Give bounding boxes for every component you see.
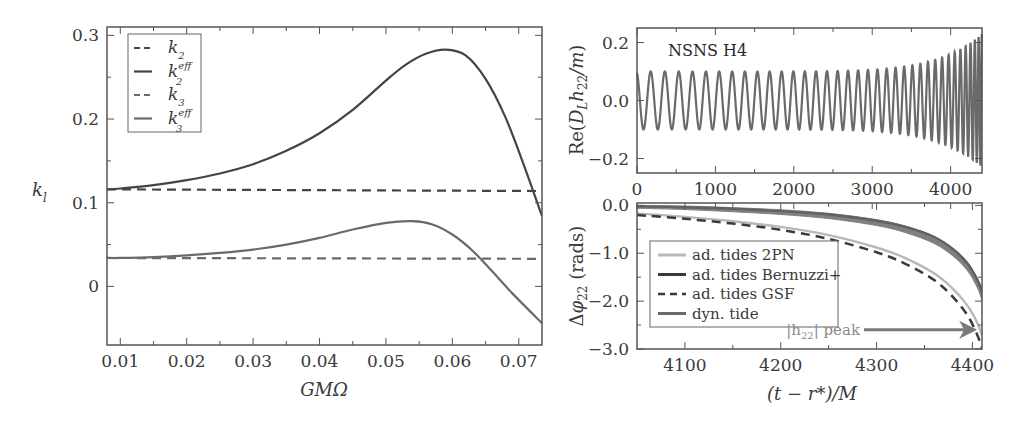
bottom-right-y-axis-label: Δφ22 (rads) bbox=[566, 226, 590, 327]
y-tick-label: 0 bbox=[88, 276, 99, 296]
h22-peak-annotation: |h22| peak bbox=[786, 321, 977, 341]
left-y-axis-label: kl bbox=[32, 179, 47, 205]
x-tick-label: 2000 bbox=[772, 179, 815, 199]
y-tick-label: 0.0 bbox=[602, 91, 629, 111]
series-line bbox=[107, 189, 542, 191]
x-tick-label: 4300 bbox=[855, 355, 898, 375]
y-tick-label: 0.1 bbox=[72, 193, 99, 213]
x-tick-label: 0.03 bbox=[234, 351, 272, 371]
x-tick-label: 0.01 bbox=[101, 351, 139, 371]
legend-label: ad. tides 2PN bbox=[692, 246, 795, 264]
legend-label: dyn. tide bbox=[692, 305, 759, 323]
y-tick-label: −0.2 bbox=[588, 149, 629, 169]
x-tick-label: 0.04 bbox=[301, 351, 339, 371]
left-legend: k2keff2k3keff3 bbox=[128, 34, 201, 134]
x-tick-label: 0.02 bbox=[168, 351, 206, 371]
top-right-panel-title: NSNS H4 bbox=[668, 41, 747, 60]
y-tick-label: −1.0 bbox=[588, 243, 629, 263]
left-x-axis-label: GMΩ bbox=[300, 379, 348, 400]
x-tick-label: 4000 bbox=[929, 179, 972, 199]
series-line bbox=[107, 258, 542, 259]
bottom-right-legend: ad. tides 2PNad. tides Bernuzzi+ad. tide… bbox=[650, 241, 841, 327]
legend-label: ad. tides Bernuzzi+ bbox=[692, 266, 841, 284]
annotation-text: |h22| peak bbox=[786, 321, 861, 341]
y-tick-label: −2.0 bbox=[588, 291, 629, 311]
figure: 0.010.020.030.040.050.060.0700.10.20.3 k… bbox=[0, 0, 1019, 429]
x-tick-label: 4100 bbox=[663, 355, 706, 375]
y-tick-label: −3.0 bbox=[588, 339, 629, 359]
x-tick-label: 4400 bbox=[951, 355, 994, 375]
y-tick-label: 0.3 bbox=[72, 25, 99, 45]
x-tick-label: 0.06 bbox=[433, 351, 471, 371]
left-chart: 0.010.020.030.040.050.060.0700.10.20.3 k… bbox=[32, 25, 542, 400]
x-tick-label: 4200 bbox=[759, 355, 802, 375]
y-tick-label: 0.2 bbox=[602, 33, 629, 53]
x-tick-label: 1000 bbox=[694, 179, 737, 199]
legend-label: ad. tides GSF bbox=[692, 285, 795, 303]
x-tick-label: 0 bbox=[632, 179, 643, 199]
x-tick-label: 0.05 bbox=[367, 351, 405, 371]
bottom-right-chart: 41004200430044000.0−1.0−2.0−3.0 ad. tide… bbox=[566, 195, 994, 404]
top-right-chart: 010002000300040000.20.0−0.2 NSNS H4 Re(D… bbox=[566, 28, 982, 199]
x-tick-label: 0.07 bbox=[500, 351, 538, 371]
x-tick-label: 3000 bbox=[851, 179, 894, 199]
bottom-right-x-axis-label: (t − r*)/M bbox=[767, 383, 857, 404]
series-line bbox=[107, 221, 542, 323]
top-right-y-axis-label: Re(DLh22/m) bbox=[566, 45, 590, 156]
y-tick-label: 0.2 bbox=[72, 109, 99, 129]
y-tick-label: 0.0 bbox=[602, 195, 629, 215]
